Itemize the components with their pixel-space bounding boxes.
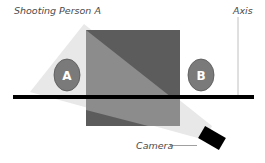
subject-a-label: A xyxy=(62,69,72,83)
subject-b: B xyxy=(188,59,214,91)
diagram-canvas: A B Shooting Person A Axis Camera xyxy=(0,0,265,163)
axis-line xyxy=(13,95,254,99)
axis-label: Axis xyxy=(232,5,253,16)
camera-axis-diagram: A B Shooting Person A Axis Camera xyxy=(0,0,265,163)
subject-b-label: B xyxy=(196,69,205,83)
shooting-label: Shooting Person A xyxy=(14,5,101,16)
subject-a: A xyxy=(54,59,80,91)
camera-label: Camera xyxy=(136,140,173,151)
